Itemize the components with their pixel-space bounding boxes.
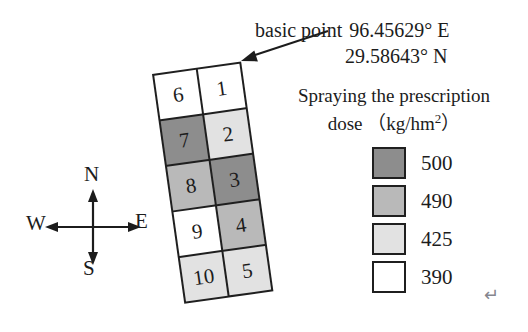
legend-title: Spraying the prescription dose （kg/hm2） [266, 84, 522, 135]
legend-swatch [372, 185, 406, 217]
grid-cell-8: 8 [167, 161, 215, 210]
legend-item: 490 [372, 185, 453, 217]
grid-cell-10: 10 [180, 252, 228, 301]
compass-north-label: N [84, 163, 99, 185]
legend-swatch [372, 223, 406, 255]
legend-value: 500 [421, 151, 453, 176]
grid-cell-5: 5 [223, 246, 271, 295]
leader-arrow-icon [228, 24, 338, 69]
legend-swatch [372, 147, 406, 179]
legend-items: 500490425390 [372, 147, 453, 299]
legend-value: 425 [421, 227, 453, 252]
grid-cell-7: 7 [161, 115, 209, 164]
compass-south-label: S [83, 257, 95, 279]
compass-west-label: W [26, 212, 46, 234]
basic-point-latitude: 29.58643° N [345, 45, 447, 68]
compass-east-label: E [135, 210, 148, 232]
legend-title-line1: Spraying the prescription [266, 84, 522, 107]
prescription-map-figure: basic point96.45629° E 29.58643° N N W E… [0, 0, 528, 332]
legend-item: 425 [372, 223, 453, 255]
legend-title-line2: dose （kg/hm2） [266, 107, 522, 135]
grid-cell-4: 4 [217, 200, 265, 249]
basic-point-longitude: 96.45629° E [349, 19, 449, 41]
grid-cell-9: 9 [173, 207, 221, 256]
legend-item: 390 [372, 261, 453, 293]
grid-cell-2: 2 [204, 109, 252, 158]
legend-value: 490 [421, 189, 453, 214]
prescription-grid: 61728394105 [152, 61, 273, 303]
legend-item: 500 [372, 147, 453, 179]
legend-swatch [372, 261, 406, 293]
grid-cell-3: 3 [211, 155, 259, 204]
grid-cell-1: 1 [198, 64, 246, 113]
grid-cell-6: 6 [154, 70, 202, 119]
legend-value: 390 [421, 265, 453, 290]
return-mark: ↵ [484, 284, 499, 306]
